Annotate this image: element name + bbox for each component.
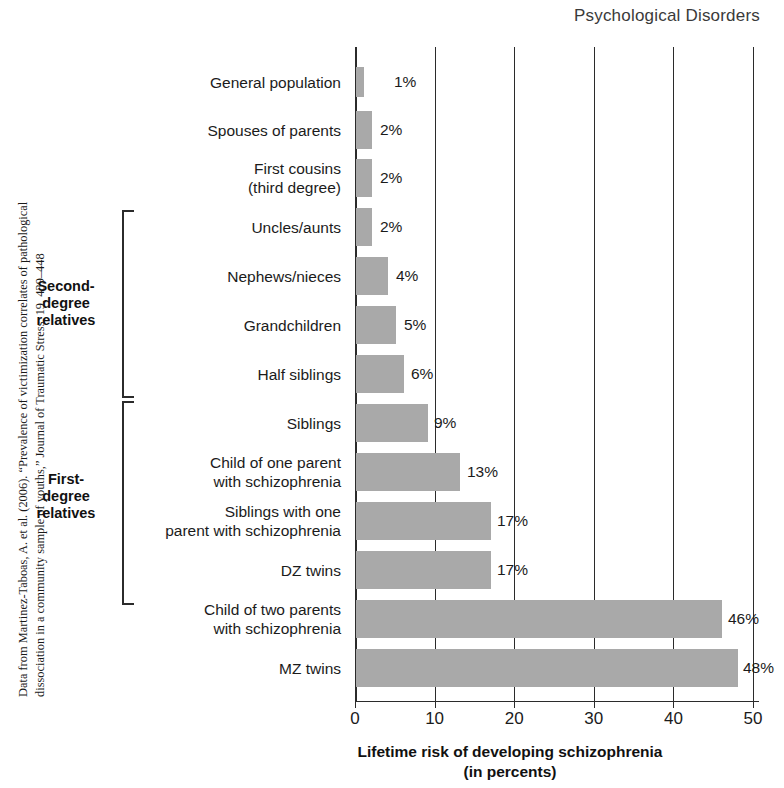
table-row: Grandchildren 5% [0,303,784,347]
bar-value-label: 9% [434,414,456,432]
table-row: MZ twins 48% [0,646,784,690]
category-label: Spouses of parents [81,121,341,140]
category-label: Siblings [81,414,341,433]
table-row: Uncles/aunts 2% [0,205,784,249]
bar-value-label: 6% [411,365,433,383]
bar [356,111,372,149]
bar [356,404,428,442]
table-row: Nephews/nieces 4% [0,254,784,298]
bar-value-label: 2% [380,169,402,187]
tick-label-20: 20 [494,709,534,729]
bar [356,208,372,246]
category-label: First cousins (third degree) [81,159,341,197]
bar [356,649,738,687]
x-axis-title-main: Lifetime risk of developing schizophreni… [358,743,663,760]
bar-value-label: 1% [394,73,416,91]
table-row: Siblings 9% [0,401,784,445]
bar-value-label: 17% [497,561,528,579]
tick-label-10: 10 [415,709,455,729]
x-axis-title: Lifetime risk of developing schizophreni… [300,742,720,782]
bar [356,159,372,197]
bar [356,257,388,295]
bar-value-label: 17% [497,512,528,530]
x-axis-line [355,701,759,702]
table-row: Siblings with one parent with schizophre… [0,499,784,543]
category-label: MZ twins [81,659,341,678]
bar-value-label: 46% [728,610,759,628]
category-label: DZ twins [81,561,341,580]
category-label: Child of one parent with schizophrenia [81,453,341,491]
bar [356,600,722,638]
bar-value-label: 13% [467,463,498,481]
category-label: Siblings with one parent with schizophre… [81,502,341,540]
tick-mark-30 [594,701,595,708]
tick-mark-10 [435,701,436,708]
bar [356,355,404,393]
bar-value-label: 4% [396,267,418,285]
category-label: Uncles/aunts [81,218,341,237]
bar-value-label: 48% [743,659,774,677]
bar [356,67,364,97]
bar [356,551,491,589]
bar [356,502,491,540]
table-row: Child of one parent with schizophrenia 1… [0,450,784,494]
bar [356,453,460,491]
table-row: Spouses of parents 2% [0,108,784,152]
table-row: General population 1% [0,60,784,104]
tick-label-0: 0 [335,709,375,729]
category-label: Nephews/nieces [81,267,341,286]
tick-label-40: 40 [653,709,693,729]
category-label: Grandchildren [81,316,341,335]
bar-value-label: 2% [380,218,402,236]
bar-value-label: 2% [380,121,402,139]
table-row: First cousins (third degree) 2% [0,156,784,200]
tick-mark-0 [355,701,356,708]
page-title: Psychological Disorders [0,6,760,26]
tick-mark-20 [514,701,515,708]
category-label: General population [81,73,341,92]
tick-mark-40 [673,701,674,708]
x-axis-title-sub: (in percents) [300,762,720,782]
table-row: DZ twins 17% [0,548,784,592]
category-label: Child of two parents with schizophrenia [81,600,341,638]
tick-label-30: 30 [574,709,614,729]
category-label: Half siblings [81,365,341,384]
table-row: Child of two parents with schizophrenia … [0,597,784,641]
tick-label-50: 50 [733,709,773,729]
bar-value-label: 5% [404,316,426,334]
table-row: Half siblings 6% [0,352,784,396]
bar [356,306,396,344]
tick-mark-50 [753,701,754,708]
